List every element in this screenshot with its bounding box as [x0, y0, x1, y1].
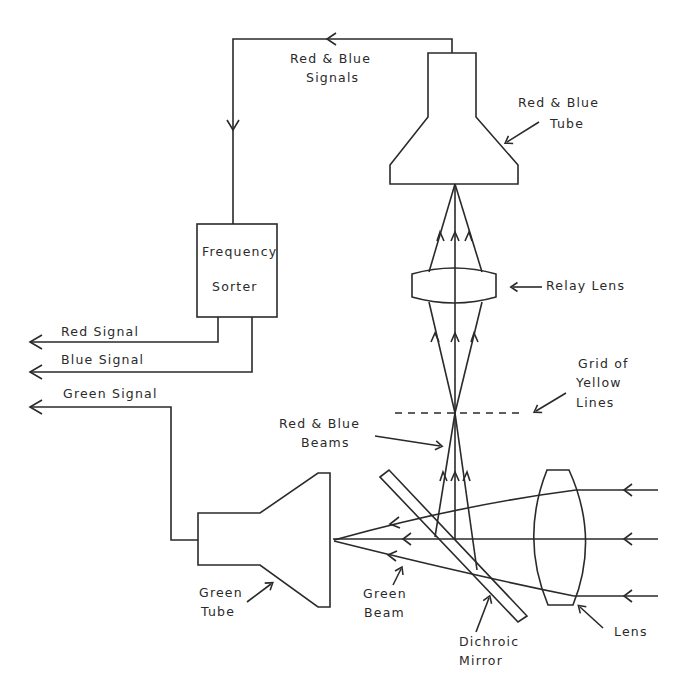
grid-label-3: Lines — [576, 395, 615, 410]
blue-signal-label: Blue Signal — [61, 352, 144, 367]
red-blue-signals-label-2: Signals — [306, 70, 359, 85]
red-blue-beams — [429, 184, 482, 570]
dichroic-mirror-label-1: Dichroic — [459, 634, 519, 649]
frequency-sorter-box — [197, 224, 277, 317]
green-signal-line — [30, 407, 198, 540]
red-blue-tube-label-1: Red & Blue — [518, 95, 599, 110]
pointer-arrow-icon — [536, 393, 566, 411]
pointer-arrow-icon — [247, 584, 271, 602]
incoming-rays — [333, 484, 658, 602]
green-tube-label-2: Tube — [200, 604, 235, 619]
relay-lens — [412, 268, 496, 303]
relay-lens-label: Relay Lens — [546, 278, 625, 293]
arrow-up-icon — [437, 232, 444, 241]
arrow-up-icon — [431, 333, 439, 342]
pointer-arrow-icon — [393, 569, 401, 585]
green-beam-label-2: Beam — [364, 605, 405, 620]
frequency-sorter-label-1: Frequency — [202, 244, 277, 259]
red-blue-tube-label-2: Tube — [549, 116, 584, 131]
arrow-up-icon — [471, 333, 478, 342]
grid-label-1: Grid of — [578, 356, 629, 371]
red-signal-label: Red Signal — [61, 324, 139, 339]
red-blue-beams-label-2: Beams — [301, 435, 350, 450]
pointer-arrow-icon — [375, 436, 440, 446]
pointer-arrow-icon — [580, 607, 603, 628]
optical-diagram: Red & Blue Signals Red & Blue Tube Frequ… — [0, 0, 683, 690]
red-blue-tube — [390, 53, 518, 184]
dichroic-mirror-label-2: Mirror — [459, 653, 503, 668]
green-beam-label-1: Green — [363, 586, 407, 601]
red-blue-beams-label-1: Red & Blue — [279, 416, 360, 431]
pointer-arrow-icon — [507, 122, 539, 142]
lens-label: Lens — [614, 624, 648, 639]
red-blue-signals-label-1: Red & Blue — [290, 51, 371, 66]
green-signal-label: Green Signal — [63, 386, 158, 401]
grid-label-2: Yellow — [575, 375, 622, 390]
frequency-sorter-label-2: Sorter — [212, 279, 258, 294]
pointer-arrow-icon — [476, 598, 489, 632]
green-tube-label-1: Green — [199, 585, 243, 600]
